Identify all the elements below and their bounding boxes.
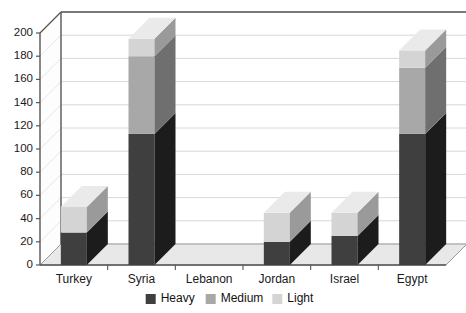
bar-segment-side-heavy <box>155 113 176 265</box>
bar-segment-side-heavy <box>425 113 446 265</box>
bar-segment-heavy <box>264 242 290 265</box>
chart-container: 020406080100120140160180200 TurkeySyriaL… <box>0 0 466 313</box>
legend-swatch-medium <box>206 294 216 304</box>
x-category-label: Jordan <box>258 272 295 286</box>
x-category-label: Lebanon <box>186 272 233 286</box>
bar-segment-light <box>332 213 358 236</box>
y-tick-label: 40 <box>20 212 33 224</box>
bar-segment-heavy <box>332 236 358 265</box>
bar-segment-medium <box>399 68 425 134</box>
bar-segment-light <box>399 50 425 67</box>
y-tick-label: 180 <box>14 49 33 61</box>
bar-segment-light <box>129 39 155 56</box>
bar-segment-medium <box>129 56 155 134</box>
x-category-label: Egypt <box>397 272 428 286</box>
bar-syria <box>129 18 176 265</box>
x-category-label: Syria <box>128 272 156 286</box>
bar-segment-heavy <box>61 233 87 265</box>
y-tick-label: 140 <box>14 96 33 108</box>
y-tick-label: 60 <box>20 188 33 200</box>
bar-segment-light <box>61 207 87 233</box>
x-category-label: Israel <box>330 272 359 286</box>
bar-segment-heavy <box>129 134 155 265</box>
y-tick-label: 100 <box>14 142 33 154</box>
bar-egypt <box>399 29 446 265</box>
chart-legend: HeavyMediumLight <box>146 291 314 305</box>
y-tick-label: 120 <box>14 119 33 131</box>
x-category-label: Turkey <box>56 272 92 286</box>
y-tick-label: 0 <box>27 258 33 270</box>
legend-swatch-heavy <box>146 294 156 304</box>
legend-label-light: Light <box>287 291 314 305</box>
y-tick-label: 160 <box>14 72 33 84</box>
legend-label-heavy: Heavy <box>161 291 195 305</box>
legend-swatch-light <box>272 294 282 304</box>
y-tick-label: 80 <box>20 165 33 177</box>
bar-segment-heavy <box>399 134 425 265</box>
bar-segment-light <box>264 213 290 242</box>
stacked-bar-chart: 020406080100120140160180200 TurkeySyriaL… <box>0 0 466 313</box>
legend-label-medium: Medium <box>221 291 264 305</box>
y-tick-label: 200 <box>14 26 33 38</box>
y-tick-label: 20 <box>20 235 33 247</box>
